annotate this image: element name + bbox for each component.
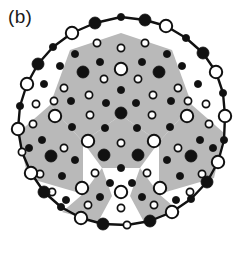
atom-small-black xyxy=(209,144,216,151)
atom-large-black xyxy=(132,149,144,161)
atom-large-white xyxy=(115,186,127,198)
atom-large-black xyxy=(115,107,127,119)
boundary-atom-large-white xyxy=(75,212,87,224)
atom-small-white xyxy=(29,120,36,127)
atom-small-white xyxy=(117,204,124,211)
figure-panel: (b) xyxy=(0,0,242,259)
atom-small-black xyxy=(178,62,185,69)
cluster-diagram xyxy=(0,0,242,259)
boundary-atom-small-black xyxy=(187,195,194,202)
atom-large-white xyxy=(82,135,94,147)
atom-small-white xyxy=(117,44,124,51)
atom-small-black xyxy=(71,50,78,57)
atom-large-white xyxy=(148,135,160,147)
atom-large-white xyxy=(49,110,61,122)
atom-large-white xyxy=(76,182,88,194)
boundary-atom-large-white xyxy=(12,123,24,135)
atom-small-white xyxy=(205,120,212,127)
atom-small-white xyxy=(184,97,191,104)
atom-small-black xyxy=(196,136,203,143)
boundary-atom-large-white xyxy=(21,78,33,90)
boundary-atom-small-white xyxy=(123,221,130,228)
atom-small-black xyxy=(67,97,74,104)
boundary-atom-large-black xyxy=(144,215,156,227)
atom-small-black xyxy=(172,196,179,203)
atom-small-black xyxy=(128,179,135,186)
atom-small-white xyxy=(174,84,181,91)
atom-small-black xyxy=(166,123,173,130)
boundary-atom-large-black xyxy=(38,186,50,198)
boundary-atom-large-black xyxy=(197,47,209,59)
atom-small-white xyxy=(100,75,107,82)
atom-large-white xyxy=(115,63,127,75)
atom-small-black xyxy=(117,86,124,93)
atom-small-black xyxy=(132,99,139,106)
atom-small-white xyxy=(143,169,150,176)
atom-small-black xyxy=(96,58,103,65)
atom-small-black xyxy=(194,80,201,87)
boundary-atom-large-white xyxy=(66,27,78,39)
atom-small-black xyxy=(68,123,75,130)
atom-small-black xyxy=(133,124,140,131)
atom-small-black xyxy=(163,50,170,57)
atom-small-black xyxy=(71,156,78,163)
boundary-atom-large-black xyxy=(201,176,213,188)
atom-small-black xyxy=(117,164,124,171)
boundary-atom-small-black xyxy=(57,203,64,210)
atom-small-black xyxy=(138,58,145,65)
atom-large-black xyxy=(153,66,165,78)
boundary-atom-large-white xyxy=(212,156,224,168)
boundary-atom-large-white xyxy=(219,110,231,122)
boundary-atom-small-white xyxy=(18,148,25,155)
boundary-atom-large-white xyxy=(160,20,172,32)
atom-small-white xyxy=(84,201,91,208)
atom-small-black xyxy=(176,172,183,179)
atom-large-white xyxy=(154,182,166,194)
boundary-atom-large-white xyxy=(166,206,178,218)
atom-small-black xyxy=(163,156,170,163)
atom-small-white xyxy=(141,39,148,46)
atom-small-white xyxy=(202,100,209,107)
atom-small-white xyxy=(86,111,93,118)
boundary-atom-small-black xyxy=(16,102,23,109)
boundary-atom-small-black xyxy=(182,34,189,41)
atom-small-black xyxy=(62,196,69,203)
boundary-atom-large-white xyxy=(25,167,37,179)
boundary-atom-small-black xyxy=(117,13,124,20)
atom-small-white xyxy=(85,91,92,98)
atom-small-black xyxy=(40,80,47,87)
boundary-atom-small-black xyxy=(49,43,56,50)
atom-small-white xyxy=(149,91,156,98)
boundary-atom-large-black xyxy=(32,58,44,70)
atom-small-black xyxy=(58,172,65,179)
boundary-atom-small-black xyxy=(220,136,227,143)
atom-small-black xyxy=(25,144,32,151)
atom-small-white xyxy=(148,111,155,118)
atom-small-white xyxy=(91,169,98,176)
atom-small-black xyxy=(106,179,113,186)
atom-large-black xyxy=(185,150,197,162)
atom-small-white xyxy=(186,188,193,195)
atom-small-black xyxy=(138,193,145,200)
boundary-atom-large-black xyxy=(139,14,151,26)
atom-small-black xyxy=(102,99,109,106)
atom-small-black xyxy=(167,97,174,104)
atom-large-white xyxy=(181,110,193,122)
atom-large-black xyxy=(98,149,110,161)
atom-large-black xyxy=(77,66,89,78)
atom-small-white xyxy=(150,201,157,208)
atom-small-white xyxy=(32,100,39,107)
atom-small-black xyxy=(56,62,63,69)
atom-small-white xyxy=(60,84,67,91)
boundary-atom-small-black xyxy=(219,89,226,96)
boundary-atom-large-black xyxy=(97,218,109,230)
boundary-atom-large-black xyxy=(89,17,101,29)
atom-small-white xyxy=(117,139,124,146)
atom-small-white xyxy=(50,97,57,104)
atom-small-white xyxy=(134,75,141,82)
atom-small-black xyxy=(96,193,103,200)
atom-small-white xyxy=(93,39,100,46)
atom-small-white xyxy=(174,144,181,151)
atom-small-black xyxy=(38,136,45,143)
atom-small-black xyxy=(101,124,108,131)
